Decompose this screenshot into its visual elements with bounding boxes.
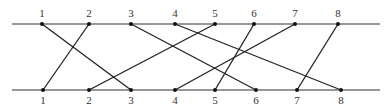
- top-node-label: 4: [172, 7, 178, 19]
- bottom-node-3: [129, 88, 133, 92]
- bottom-node-label: 3: [128, 94, 134, 106]
- top-node-4: [173, 22, 177, 26]
- bottom-node-label: 4: [172, 94, 178, 106]
- connection-2-to-1: [43, 24, 89, 90]
- connection-5-to-2: [89, 24, 215, 90]
- bottom-node-label: 7: [294, 94, 300, 106]
- top-node-6: [252, 22, 256, 26]
- bottom-node-4: [173, 88, 177, 92]
- permutation-diagram: 1234567812345678: [0, 0, 391, 109]
- top-node-1: [40, 22, 44, 26]
- top-node-3: [129, 22, 133, 26]
- bottom-node-7: [295, 88, 299, 92]
- bottom-node-label: 6: [253, 94, 259, 106]
- bottom-node-label: 1: [40, 94, 46, 106]
- top-node-label: 8: [335, 7, 341, 19]
- connection-1-to-3: [42, 24, 131, 90]
- bottom-node-8: [339, 88, 343, 92]
- top-node-label: 2: [86, 7, 92, 19]
- top-node-label: 3: [128, 7, 134, 19]
- bottom-node-label: 2: [86, 94, 92, 106]
- bottom-node-2: [87, 88, 91, 92]
- top-node-7: [293, 22, 297, 26]
- bottom-node-label: 5: [212, 94, 218, 106]
- top-node-5: [213, 22, 217, 26]
- connection-4-to-8: [175, 24, 341, 90]
- top-node-2: [87, 22, 91, 26]
- top-node-label: 1: [39, 7, 45, 19]
- bottom-node-6: [254, 88, 258, 92]
- top-node-label: 6: [251, 7, 257, 19]
- top-node-label: 5: [212, 7, 218, 19]
- bottom-node-1: [41, 88, 45, 92]
- bottom-node-5: [213, 88, 217, 92]
- top-node-label: 7: [292, 7, 298, 19]
- bottom-node-label: 8: [338, 94, 344, 106]
- top-node-8: [336, 22, 340, 26]
